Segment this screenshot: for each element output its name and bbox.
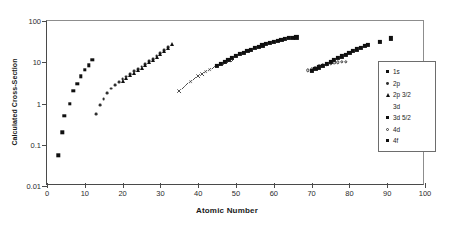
legend-marker [383, 104, 392, 108]
legend-item-4d[interactable]: 4d [383, 124, 432, 136]
y-tick-label: 100 [28, 17, 41, 26]
legend-marker [383, 116, 392, 119]
chart-figure: 0.010.1110100 0102030405060708090100 Cal… [0, 0, 454, 231]
x-cross-marker [386, 104, 390, 108]
chart-legend: 1s2p2p 3/23d3d 5/24d4f [378, 61, 436, 152]
legend-item-3d[interactable]: 3d [383, 101, 432, 113]
filled-square-marker [378, 40, 382, 44]
x-tick-label: 100 [419, 189, 432, 198]
y-tick-label: 0.01 [26, 182, 41, 191]
x-tick-label: 50 [232, 189, 240, 198]
legend-label: 2p [393, 80, 400, 87]
plot-area: 0.010.1110100 0102030405060708090100 [46, 20, 424, 185]
x-tick-label: 20 [118, 189, 126, 198]
legend-marker [383, 82, 392, 85]
legend-marker [383, 70, 392, 73]
legend-label: 4d [393, 126, 400, 133]
x-tick-label: 0 [45, 189, 49, 198]
legend-marker [383, 139, 392, 142]
legend-marker [383, 128, 392, 131]
data-point [389, 36, 393, 40]
filled-square-marker [386, 116, 389, 119]
legend-item-4f[interactable]: 4f [383, 135, 432, 147]
legend-label: 3d 5/2 [393, 114, 411, 121]
x-axis-title: Atomic Number [0, 206, 454, 215]
data-points-layer [47, 21, 423, 184]
filled-square-marker [386, 139, 389, 142]
legend-item-2p[interactable]: 2p [383, 78, 432, 90]
small-dot-marker [386, 82, 389, 85]
filled-triangle-marker [386, 93, 390, 97]
y-tick-label: 1 [37, 99, 41, 108]
series-4f [47, 21, 423, 184]
x-tick-label: 90 [383, 189, 391, 198]
x-tick-label: 40 [194, 189, 202, 198]
x-tick-label: 70 [307, 189, 315, 198]
data-point [366, 43, 370, 47]
x-tick-label: 80 [345, 189, 353, 198]
y-tick-label: 10 [33, 58, 41, 67]
legend-item-3d-5-2[interactable]: 3d 5/2 [383, 112, 432, 124]
legend-item-2p-3-2[interactable]: 2p 3/2 [383, 89, 432, 101]
filled-square-marker [389, 36, 393, 40]
open-circle-marker [386, 128, 389, 131]
x-tick [425, 183, 426, 188]
x-tick-label: 30 [156, 189, 164, 198]
legend-label: 1s [393, 68, 400, 75]
y-axis-title: Calculated Cross-Section [11, 58, 18, 145]
x-tick-label: 10 [81, 189, 89, 198]
x-tick-label: 60 [270, 189, 278, 198]
legend-label: 2p 3/2 [393, 91, 411, 98]
legend-label: 4f [393, 137, 398, 144]
legend-label: 3d [393, 103, 400, 110]
y-tick-label: 0.1 [31, 140, 41, 149]
legend-item-1s[interactable]: 1s [383, 66, 432, 78]
filled-square-marker [366, 43, 370, 47]
filled-square-marker [386, 70, 389, 73]
data-point [378, 40, 382, 44]
legend-marker [383, 93, 392, 97]
